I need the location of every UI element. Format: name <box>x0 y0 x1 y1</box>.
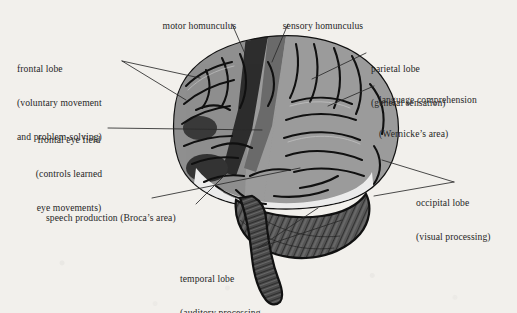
language-comprehension-line-2: (Wernicke’s area) <box>379 128 514 139</box>
frontal-eye-field-line-2: (controls learned <box>14 168 124 179</box>
label-sensory-homunculus: sensory homunculus <box>258 9 378 43</box>
frontal-lobe-line-1: frontal lobe <box>17 63 157 74</box>
brain-anatomy-figure: motor homunculus sensory homunculus fron… <box>0 0 517 313</box>
label-language-comprehension: language comprehension (Wernicke’s area) <box>379 72 514 162</box>
occipital-lobe-line-1: occipital lobe <box>416 197 516 208</box>
label-speech-production: speech production (Broca’s area) <box>36 201 206 235</box>
speech-production-text: speech production (Broca’s area) <box>46 212 176 223</box>
language-comprehension-line-1: language comprehension <box>379 94 514 105</box>
motor-homunculus-text: motor homunculus <box>163 20 237 31</box>
frontal-eye-field-line-1: frontal eye field <box>14 134 124 145</box>
temporal-lobe-line-1: temporal lobe <box>180 273 320 284</box>
temporal-lobe-line-2: (auditory processing, <box>180 307 320 313</box>
sensory-homunculus-text: sensory homunculus <box>283 20 363 31</box>
label-motor-homunculus: motor homunculus <box>137 9 252 43</box>
occipital-lobe-line-2: (visual processing) <box>416 231 516 242</box>
label-occipital-lobe: occipital lobe (visual processing) <box>416 175 516 265</box>
frontal-lobe-line-2: (voluntary movement <box>17 97 157 108</box>
label-temporal-lobe: temporal lobe (auditory processing, shor… <box>180 251 320 313</box>
